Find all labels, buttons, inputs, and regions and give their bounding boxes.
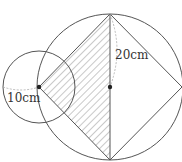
- large-circle-center-point: [108, 85, 112, 89]
- small-radius-dimension-arc: [3, 87, 39, 90]
- large-radius-label: 20cm: [115, 48, 149, 62]
- small-circle-center-point: [37, 85, 41, 89]
- geometry-diagram: 20cm 10cm: [0, 0, 182, 162]
- small-radius-label: 10cm: [7, 91, 41, 105]
